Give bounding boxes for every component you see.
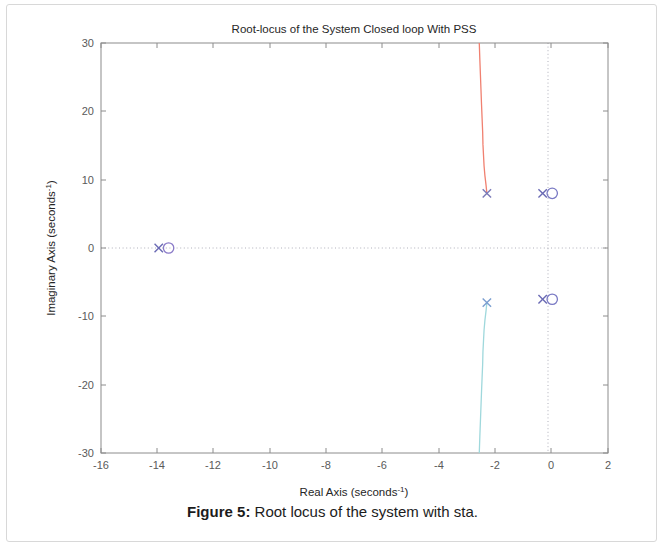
x-tick-label: -2 bbox=[490, 459, 500, 471]
x-tick-label: -16 bbox=[93, 459, 109, 471]
x-tick-label: -14 bbox=[149, 459, 165, 471]
x-tick-label: -8 bbox=[321, 459, 331, 471]
y-tick-label: -30 bbox=[78, 447, 94, 459]
y-axis-title: Imaginary Axis (seconds-1) bbox=[44, 180, 57, 316]
chart-plot-area: Root-locus of the System Closed loop Wit… bbox=[7, 5, 658, 505]
y-tick-label: -20 bbox=[78, 379, 94, 391]
root-locus-chart: Root-locus of the System Closed loop Wit… bbox=[7, 5, 658, 505]
x-axis-tick-labels: -16 -14 -12 -10 -8 -6 -4 -2 0 2 bbox=[93, 459, 611, 471]
figure-card: Root-locus of the System Closed loop Wit… bbox=[6, 4, 657, 542]
y-tick-label: 30 bbox=[82, 37, 94, 49]
y-axis-title-tail: ) bbox=[45, 180, 57, 184]
y-tick-label: 10 bbox=[82, 174, 94, 186]
x-tick-label: 0 bbox=[548, 459, 554, 471]
x-axis-title: Real Axis (seconds-1) bbox=[300, 485, 409, 498]
y-axis-title-main: Imaginary Axis (seconds bbox=[45, 191, 57, 316]
y-tick-label: 20 bbox=[82, 105, 94, 117]
figure-caption-label: Figure 5: bbox=[187, 503, 250, 520]
chart-title: Root-locus of the System Closed loop Wit… bbox=[232, 23, 477, 35]
x-axis-title-main: Real Axis (seconds bbox=[300, 486, 398, 498]
x-tick-label: -10 bbox=[262, 459, 278, 471]
x-tick-label: 2 bbox=[605, 459, 611, 471]
figure-caption-text: Root locus of the system with sta. bbox=[250, 503, 478, 520]
x-axis-title-tail: ) bbox=[405, 486, 409, 498]
x-tick-label: -4 bbox=[434, 459, 444, 471]
y-tick-label: 0 bbox=[88, 242, 94, 254]
x-tick-label: -12 bbox=[205, 459, 221, 471]
y-tick-label: -10 bbox=[78, 310, 94, 322]
figure-caption: Figure 5: Root locus of the system with … bbox=[7, 503, 658, 520]
y-axis-tick-labels: 30 20 10 0 -10 -20 -30 bbox=[78, 37, 94, 459]
x-tick-label: -6 bbox=[377, 459, 387, 471]
